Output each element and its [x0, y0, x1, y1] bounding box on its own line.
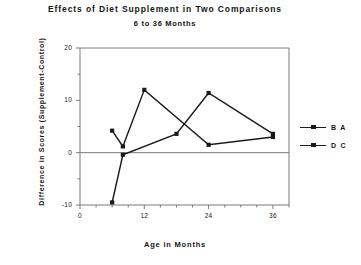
legend-line-icon [300, 140, 326, 150]
legend-item[interactable]: D C [300, 136, 360, 154]
legend-item[interactable]: B A [300, 118, 360, 136]
chart-subtitle: 6 to 36 Months [0, 19, 330, 28]
x-tick-label: 12 [134, 212, 154, 219]
y-tick-label: 0 [50, 149, 72, 156]
legend-line-icon [300, 122, 326, 132]
legend-item-label: D C [331, 142, 347, 149]
y-tick-label: 20 [50, 44, 72, 51]
x-tick-label: 24 [199, 212, 219, 219]
y-axis-label: Difference in Scores (Supplement-Control… [38, 37, 45, 207]
legend-item-label: B A [331, 124, 346, 131]
x-tick-label: 0 [70, 212, 90, 219]
chart-figure: Effects of Diet Supplement in Two Compar… [0, 0, 361, 265]
y-tick-label: 10 [50, 96, 72, 103]
x-tick-label: 36 [263, 212, 283, 219]
x-axis-label: Age in Months [80, 240, 270, 249]
y-tick-label: -10 [50, 201, 72, 208]
chart-legend: B A D C [300, 118, 360, 154]
chart-title: Effects of Diet Supplement in Two Compar… [0, 4, 330, 14]
